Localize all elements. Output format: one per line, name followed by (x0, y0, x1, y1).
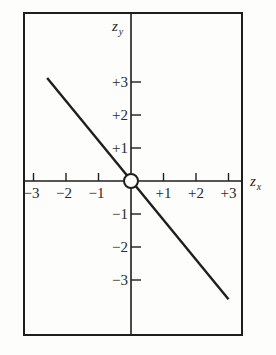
chart-canvas: −3−2−1+1+2+3 +3+2+1−1−2−3 zy zx (0, 0, 276, 355)
y-tick-label: −2 (112, 239, 128, 255)
y-tick-label: +2 (112, 107, 128, 123)
x-tick-label: −2 (56, 185, 72, 201)
y-tick-label: +1 (112, 140, 128, 156)
origin-open-circle (124, 174, 138, 188)
x-tick-label: +3 (221, 185, 237, 201)
x-tick-label: +1 (156, 185, 172, 201)
y-tick-label: −3 (112, 272, 128, 288)
x-tick-label: −1 (89, 185, 105, 201)
x-axis-label: zx (249, 173, 262, 192)
x-tick-label: +2 (188, 185, 204, 201)
y-tick-label: +3 (112, 74, 128, 90)
x-tick-label: −3 (24, 185, 40, 201)
y-axis-label: zy (111, 18, 124, 37)
y-tick-label: −1 (112, 206, 128, 222)
